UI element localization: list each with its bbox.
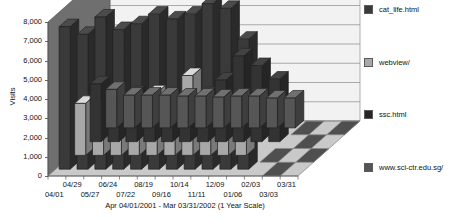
x-tick-label: 10/14: [170, 180, 189, 189]
bar-front: [195, 96, 206, 128]
x-tick-label: 12/09: [206, 180, 225, 189]
bar-front: [177, 96, 188, 128]
x-axis-label: Apr 04/01/2001 - Mar 03/31/2002 (1 Year …: [30, 201, 340, 210]
legend-swatch-icon: [364, 163, 373, 172]
legend-label: webview/: [379, 58, 410, 67]
x-tick-label: 03/31: [277, 180, 296, 189]
legend-item[interactable]: webview/: [364, 58, 410, 67]
legend-item[interactable]: cat_life.html: [364, 5, 419, 14]
legend-item[interactable]: ssc.html: [364, 110, 407, 119]
bar-front: [249, 96, 260, 128]
legend-swatch-icon: [364, 58, 373, 67]
bar-front: [106, 89, 117, 128]
bar-front: [75, 103, 86, 155]
bar-front: [124, 95, 135, 128]
bar-front: [141, 95, 152, 128]
x-tick-label: 06/24: [99, 180, 118, 189]
x-tick-label: 07/22: [116, 190, 135, 199]
legend-label: cat_life.html: [379, 5, 419, 14]
bar-front: [266, 98, 277, 128]
legend-label: ssc.html: [379, 110, 407, 119]
x-tick-label: 03/03: [259, 190, 278, 199]
x-tick-label: 01/06: [224, 190, 243, 199]
legend-swatch-icon: [364, 110, 373, 119]
legend-label: www.sci-ctr.edu.sg/: [379, 163, 443, 172]
bar-front: [231, 96, 242, 128]
x-tick-label: 04/29: [63, 180, 82, 189]
legend-item[interactable]: www.sci-ctr.edu.sg/: [364, 163, 443, 172]
bar-front: [159, 95, 170, 128]
bar-front: [90, 84, 101, 142]
x-tick-label: 04/01: [45, 190, 64, 199]
chart-legend: cat_life.htmlwebview/ssc.htmlwww.sci-ctr…: [364, 0, 469, 222]
bar-front: [213, 97, 224, 128]
legend-swatch-icon: [364, 5, 373, 14]
bar-front: [284, 98, 295, 128]
x-tick-label: 02/03: [241, 180, 260, 189]
x-tick-label: 11/11: [188, 190, 206, 199]
x-tick-label: 05/27: [81, 190, 100, 199]
bar-front: [59, 27, 70, 169]
chart-container: Top Documents Visits 01,0002,0003,0004,0…: [0, 0, 469, 222]
x-tick-label: 09/16: [152, 190, 171, 199]
x-tick-label: 08/19: [134, 180, 153, 189]
